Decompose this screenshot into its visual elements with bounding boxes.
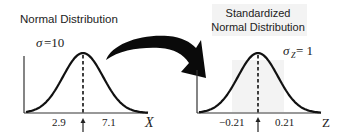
right-mean-pointer-icon [256, 117, 261, 132]
right-axis-label: Z [322, 115, 330, 130]
left-sigma-value: =10 [44, 35, 64, 50]
left-sigma-symbol: σ [36, 35, 43, 50]
right-title-line2: Normal Distribution [211, 21, 305, 33]
right-title-line1: Standardized [226, 7, 291, 19]
left-bell-curve [26, 53, 148, 113]
left-axis-label: X [144, 115, 154, 130]
right-tick-left: −0.21 [219, 116, 244, 128]
diagram-canvas: Normal Distribution σ =10 2.9 7.1 X Stan… [0, 0, 345, 139]
left-mean-pointer-icon [81, 118, 86, 132]
right-sigma-symbol: σ [283, 43, 290, 58]
left-panel: Normal Distribution σ =10 2.9 7.1 X [20, 13, 154, 132]
right-sigma-value: = 1 [296, 43, 313, 58]
left-tick-right: 7.1 [102, 116, 116, 128]
right-tick-right: 0.21 [275, 116, 294, 128]
left-title: Normal Distribution [20, 13, 118, 25]
transform-arrow-icon [106, 36, 206, 78]
left-tick-left: 2.9 [52, 116, 66, 128]
